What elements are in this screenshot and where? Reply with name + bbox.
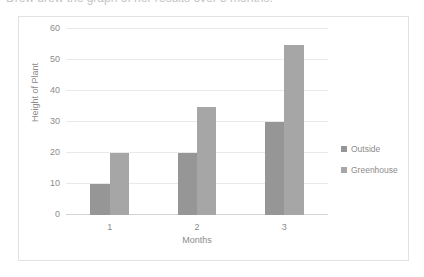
legend-swatch-icon xyxy=(341,167,347,173)
y-axis-tick-label: 20 xyxy=(50,148,60,157)
legend-item-greenhouse[interactable]: Greenhouse xyxy=(341,165,398,175)
legend-label: Greenhouse xyxy=(351,165,398,175)
bar-outside-3[interactable] xyxy=(265,122,284,215)
bar-group: 2 xyxy=(153,29,240,215)
bar-chart: Height of Plant 0102030405060123 Months … xyxy=(18,16,409,261)
x-axis-tick-label: 2 xyxy=(153,222,240,232)
y-axis-tick-label: 40 xyxy=(50,86,60,95)
y-axis-tick-label: 10 xyxy=(50,179,60,188)
y-axis-tick-label: 30 xyxy=(50,117,60,126)
bar-greenhouse-3[interactable] xyxy=(284,45,303,216)
bar-outside-1[interactable] xyxy=(90,184,109,215)
plot-area: 0102030405060123 xyxy=(66,29,328,215)
x-axis-tick-label: 1 xyxy=(66,222,153,232)
y-axis-tick-label: 0 xyxy=(55,210,60,219)
bar-greenhouse-2[interactable] xyxy=(197,107,216,216)
legend-swatch-icon xyxy=(341,146,347,152)
y-axis-title: Height of Plant xyxy=(30,63,40,122)
bar-group: 3 xyxy=(241,29,328,215)
chart-legend: OutsideGreenhouse xyxy=(341,144,398,186)
x-axis-title: Months xyxy=(66,235,328,245)
legend-item-outside[interactable]: Outside xyxy=(341,144,398,154)
caption-text: Drew drew the graph of her results over … xyxy=(6,0,273,5)
bar-greenhouse-1[interactable] xyxy=(110,153,129,215)
y-axis-tick-label: 60 xyxy=(50,24,60,33)
bar-outside-2[interactable] xyxy=(178,153,197,215)
x-axis-tick-label: 3 xyxy=(241,222,328,232)
caption-strip: Drew drew the graph of her results over … xyxy=(0,0,424,7)
legend-label: Outside xyxy=(351,144,380,154)
y-axis-tick-label: 50 xyxy=(50,55,60,64)
bar-group: 1 xyxy=(66,29,153,215)
